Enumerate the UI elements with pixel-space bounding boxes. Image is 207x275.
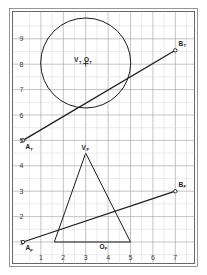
y-tick-4: 4	[20, 162, 24, 169]
x-tick-6: 6	[151, 254, 155, 261]
x-tick-1: 1	[39, 254, 43, 261]
y-tick-2: 2	[20, 213, 24, 220]
label-BF-sub: F	[184, 184, 187, 189]
plate-background	[0, 0, 207, 275]
label-VF-sub: F	[86, 147, 89, 152]
point-BT-marker	[174, 49, 177, 52]
label-OT-sub: T	[89, 60, 92, 65]
y-tick-9: 9	[20, 35, 24, 42]
x-tick-7: 7	[173, 254, 177, 261]
y-tick-1: 1	[20, 239, 24, 246]
label-OF-sub: F	[105, 246, 108, 251]
y-tick-6: 6	[20, 112, 24, 119]
y-tick-8: 8	[20, 61, 24, 68]
point-BF-marker	[174, 190, 177, 193]
diagram-canvas: 1 2 3 4 5 6 7 1 2 3 4 5 6 7 8 9 A T B	[0, 0, 207, 275]
label-OF-main: O	[100, 243, 105, 250]
y-tick-3: 3	[20, 188, 24, 195]
label-AT-sub: T	[30, 147, 33, 152]
x-tick-2: 2	[61, 254, 65, 261]
y-tick-5: 5	[20, 137, 24, 144]
label-AF-sub: F	[30, 248, 33, 253]
label-VT-sub: T	[79, 60, 82, 65]
x-tick-3: 3	[84, 254, 88, 261]
y-tick-7: 7	[20, 86, 24, 93]
y-axis-ticks: 1 2 3 4 5 6 7 8 9	[20, 35, 24, 245]
geometry-drawing: 1 2 3 4 5 6 7 1 2 3 4 5 6 7 8 9 A T B	[0, 0, 207, 275]
label-BT-sub: T	[184, 43, 187, 48]
x-tick-5: 5	[129, 254, 133, 261]
x-tick-4: 4	[106, 254, 110, 261]
label-OT-main: O	[84, 56, 89, 63]
